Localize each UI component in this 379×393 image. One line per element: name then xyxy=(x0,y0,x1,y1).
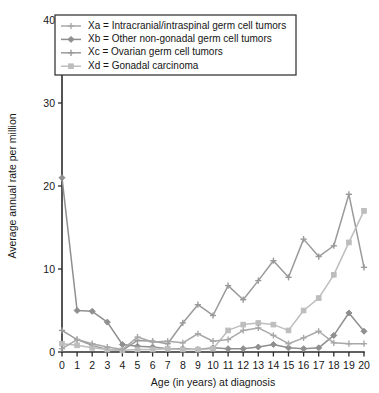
square-marker xyxy=(347,240,352,245)
x-tick-label: 7 xyxy=(165,359,171,371)
legend-label: Xa = Intracranial/intraspinal germ cell … xyxy=(88,20,286,31)
x-tick-label: 18 xyxy=(328,359,340,371)
x-tick-label: 1 xyxy=(74,359,80,371)
x-tick-label: 20 xyxy=(358,359,370,371)
square-marker xyxy=(316,296,321,301)
x-tick-label: 10 xyxy=(207,359,219,371)
x-tick-label: 6 xyxy=(150,359,156,371)
x-tick-label: 8 xyxy=(180,359,186,371)
legend-item-xb[interactable]: Xb = Other non-gonadal germ cell tumors xyxy=(61,33,272,44)
x-tick-label: 14 xyxy=(268,359,280,371)
legend-label: Xb = Other non-gonadal germ cell tumors xyxy=(88,33,272,44)
square-marker xyxy=(301,308,306,313)
square-marker xyxy=(332,273,337,278)
x-tick-label: 2 xyxy=(89,359,95,371)
x-tick-label: 5 xyxy=(135,359,141,371)
y-axis-title: Average annual rate per million xyxy=(6,113,18,258)
x-tick-label: 15 xyxy=(283,359,295,371)
square-marker xyxy=(271,322,276,327)
square-marker xyxy=(241,322,246,327)
x-tick-label: 3 xyxy=(104,359,110,371)
square-marker xyxy=(362,209,367,214)
legend-label: Xc = Ovarian germ cell tumors xyxy=(88,46,223,57)
y-tick-label: 30 xyxy=(43,97,55,109)
square-marker xyxy=(211,346,216,351)
square-marker xyxy=(69,64,74,69)
x-tick-label: 0 xyxy=(59,359,65,371)
y-tick-label: 20 xyxy=(43,180,55,192)
square-marker xyxy=(165,346,170,351)
square-marker xyxy=(150,347,155,352)
square-marker xyxy=(75,343,80,348)
y-tick-label: 10 xyxy=(43,263,55,275)
square-marker xyxy=(60,341,65,346)
x-tick-label: 16 xyxy=(298,359,310,371)
chart-legend: Xa = Intracranial/intraspinal germ cell … xyxy=(55,15,296,75)
square-marker xyxy=(135,347,140,352)
square-marker xyxy=(286,328,291,333)
y-tick-label: 40 xyxy=(43,14,55,26)
y-tick-label: 0 xyxy=(49,346,55,358)
x-tick-label: 19 xyxy=(343,359,355,371)
x-tick-label: 12 xyxy=(237,359,249,371)
x-tick-label: 4 xyxy=(119,359,125,371)
square-marker xyxy=(196,347,201,352)
x-tick-label: 17 xyxy=(313,359,325,371)
x-tick-label: 9 xyxy=(195,359,201,371)
line-chart: 010203040 012345678910111213141516171819… xyxy=(0,0,379,393)
square-marker xyxy=(181,347,186,352)
square-marker xyxy=(256,321,261,326)
chart-figure: 010203040 012345678910111213141516171819… xyxy=(0,0,379,393)
square-marker xyxy=(226,328,231,333)
x-axis-title: Age (in years) at diagnosis xyxy=(151,376,275,388)
x-tick-label: 13 xyxy=(252,359,264,371)
legend-item-xa[interactable]: Xa = Intracranial/intraspinal germ cell … xyxy=(61,20,286,31)
x-tick-label: 11 xyxy=(223,359,234,371)
legend-label: Xd = Gonadal carcinoma xyxy=(88,60,199,71)
